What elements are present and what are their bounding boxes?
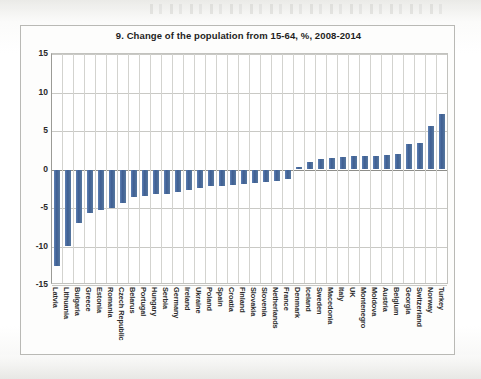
x-label-slot: Georgia — [404, 285, 415, 355]
bar-slot — [129, 54, 140, 283]
x-axis-tick-label: Macedonia — [326, 287, 335, 324]
page-bottom-artifact — [0, 355, 481, 379]
x-label-slot: Norway — [426, 285, 437, 355]
x-label-slot: Lithuania — [62, 285, 73, 355]
bar — [164, 170, 170, 195]
bar — [263, 170, 269, 182]
x-label-slot: Netherlands — [272, 285, 283, 355]
x-label-slot: Belarus — [128, 285, 139, 355]
x-axis-tick-label: Bulgaria — [73, 287, 82, 316]
bar-slot — [52, 54, 63, 283]
x-axis-tick-label: Slovenia — [260, 287, 269, 317]
bar-slot — [195, 54, 206, 283]
bar-slot — [272, 54, 283, 283]
bar-slot — [316, 54, 327, 283]
x-axis-tick-label: Estonia — [95, 287, 104, 313]
x-label-slot: Switzerland — [415, 285, 426, 355]
y-axis-tick-label: -5 — [22, 202, 48, 212]
x-axis-tick-label: Iceland — [304, 287, 313, 312]
x-label-slot: Latvia — [51, 285, 62, 355]
x-axis-tick-label: Georgia — [404, 287, 413, 314]
bar-slot — [261, 54, 272, 283]
x-axis-tick-label: Turkey — [437, 287, 446, 310]
bar — [373, 156, 379, 170]
bar-slot — [283, 54, 294, 283]
x-label-slot: Bulgaria — [73, 285, 84, 355]
bar — [307, 162, 313, 170]
x-label-slot: Hungary — [150, 285, 161, 355]
bar-slot — [107, 54, 118, 283]
chart-container: 9. Change of the population from 15-64, … — [20, 25, 455, 355]
bar — [153, 170, 159, 195]
y-axis-tick-label: 15 — [22, 48, 48, 58]
bar-slot — [228, 54, 239, 283]
bar — [219, 170, 225, 186]
x-label-slot: France — [283, 285, 294, 355]
bar — [76, 170, 82, 223]
bar-slot — [151, 54, 162, 283]
bar-slot — [338, 54, 349, 283]
bar-slot — [217, 54, 228, 283]
bar — [109, 170, 115, 209]
x-label-slot: Ukraine — [194, 285, 205, 355]
bar-slot — [173, 54, 184, 283]
x-axis-tick-label: Czech Republic — [117, 287, 126, 341]
x-label-slot: Slovakia — [250, 285, 261, 355]
x-axis-tick-label: Portugal — [139, 287, 148, 316]
bar-slot — [250, 54, 261, 283]
x-label-slot: Denmark — [294, 285, 305, 355]
bar — [428, 126, 434, 169]
bar — [65, 170, 71, 246]
chart-title: 9. Change of the population from 15-64, … — [21, 30, 456, 41]
bar — [120, 170, 126, 203]
y-axis-tick-label: 10 — [22, 87, 48, 97]
x-axis-labels: LatviaLithuaniaBulgariaGreeceEstoniaRoma… — [51, 285, 448, 355]
bar — [87, 170, 93, 213]
bar — [351, 156, 357, 169]
bar-slot — [415, 54, 426, 283]
bar — [296, 167, 302, 169]
y-axis-tick-label: -10 — [22, 241, 48, 251]
x-label-slot: Greece — [84, 285, 95, 355]
x-axis-tick-label: Finland — [238, 287, 247, 313]
x-axis-tick-label: Romania — [106, 287, 115, 318]
x-axis-tick-label: France — [282, 287, 291, 311]
x-label-slot: Serbia — [161, 285, 172, 355]
x-label-slot: Macedonia — [327, 285, 338, 355]
x-label-slot: Turkey — [437, 285, 448, 355]
bar — [362, 156, 368, 170]
bar-slot — [294, 54, 305, 283]
x-label-slot: Poland — [205, 285, 216, 355]
bar-slot — [96, 54, 107, 283]
x-label-slot: Portugal — [139, 285, 150, 355]
y-axis-tick-label: 5 — [22, 125, 48, 135]
bar — [340, 157, 346, 169]
x-label-slot: Estonia — [95, 285, 106, 355]
x-label-slot: Slovenia — [261, 285, 272, 355]
bar — [318, 159, 324, 170]
x-axis-tick-label: Croatia — [227, 287, 236, 312]
x-axis-tick-label: Belarus — [128, 287, 137, 313]
bar — [439, 114, 445, 169]
bar-slot — [140, 54, 151, 283]
x-axis-tick-label: Norway — [426, 287, 435, 313]
plot-area — [51, 53, 448, 284]
bar-slot — [118, 54, 129, 283]
x-axis-tick-label: Netherlands — [271, 287, 280, 329]
bar-slot — [404, 54, 415, 283]
bar — [274, 170, 280, 182]
bar-slot — [327, 54, 338, 283]
x-axis-tick-label: Ukraine — [194, 287, 203, 313]
x-label-slot: Czech Republic — [117, 285, 128, 355]
y-axis-tick-label: -15 — [22, 279, 48, 289]
x-axis-tick-label: Hungary — [150, 287, 159, 316]
bar — [54, 170, 60, 266]
bar-slot — [74, 54, 85, 283]
x-axis-tick-label: Ireland — [183, 287, 192, 311]
y-axis: 151050-5-10-15 — [21, 53, 48, 284]
bar-series — [52, 54, 447, 283]
bar-slot — [393, 54, 404, 283]
bar-slot — [85, 54, 96, 283]
x-axis-tick-label: Serbia — [161, 287, 170, 309]
x-label-slot: Ireland — [183, 285, 194, 355]
